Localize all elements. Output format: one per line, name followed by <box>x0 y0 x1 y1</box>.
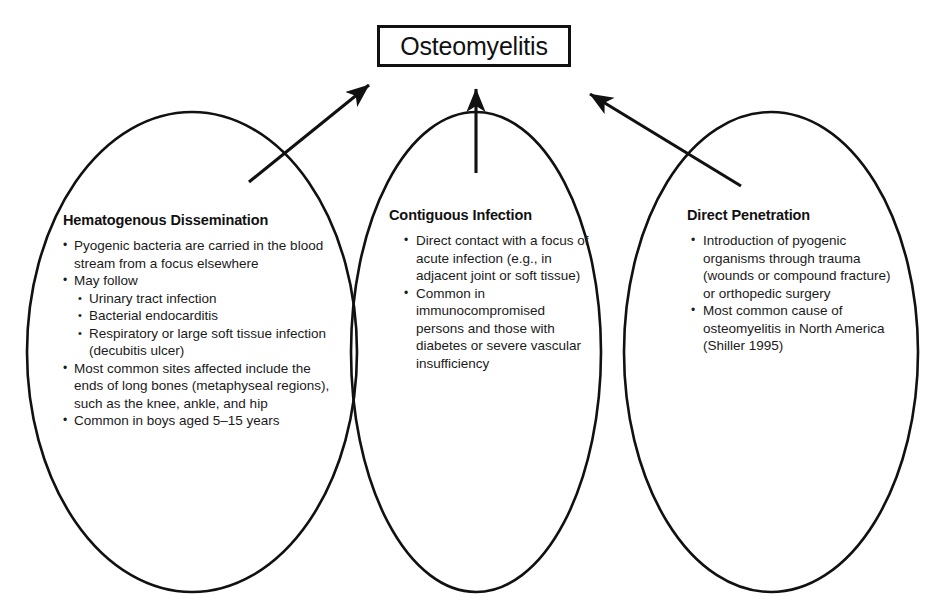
list-item: Urinary tract infection <box>63 290 331 308</box>
group-heading-contiguous: Contiguous Infection <box>389 207 589 223</box>
list-item: Common in boys aged 5–15 years <box>63 412 331 430</box>
group-contiguous-infection: Contiguous Infection Direct contact with… <box>389 207 589 372</box>
title-box: Osteomyelitis <box>377 25 571 67</box>
bullet-list-hematogenous: Pyogenic bacteria are carried in the blo… <box>63 237 331 430</box>
bullet-list-direct: Introduction of pyogenic organisms throu… <box>690 232 892 355</box>
list-item: Bacterial endocarditis <box>63 307 331 325</box>
arrow-direct-to-title <box>590 94 741 186</box>
group-direct-penetration: Direct Penetration Introduction of pyoge… <box>687 207 892 355</box>
list-item: Most common cause of osteomyelitis in No… <box>690 302 892 355</box>
bullet-list-contiguous: Direct contact with a focus of acute inf… <box>403 232 589 372</box>
list-item: Most common sites affected include the e… <box>63 360 331 413</box>
list-item: Introduction of pyogenic organisms throu… <box>690 232 892 302</box>
list-item: Common in immunocompromised persons and … <box>403 285 589 373</box>
arrow-hematogenous-to-title <box>249 85 369 182</box>
list-item: Pyogenic bacteria are carried in the blo… <box>63 237 331 272</box>
list-item: Respiratory or large soft tissue infecti… <box>63 325 331 360</box>
group-heading-hematogenous: Hematogenous Dissemination <box>63 212 331 228</box>
group-heading-direct: Direct Penetration <box>687 207 892 223</box>
page-title: Osteomyelitis <box>400 34 547 59</box>
group-hematogenous-dissemination: Hematogenous Dissemination Pyogenic bact… <box>63 212 331 430</box>
osteomyelitis-causes-diagram: Osteomyelitis Hematogenous Dissemination… <box>0 0 950 613</box>
list-item: May follow <box>63 272 331 290</box>
list-item: Direct contact with a focus of acute inf… <box>403 232 589 285</box>
